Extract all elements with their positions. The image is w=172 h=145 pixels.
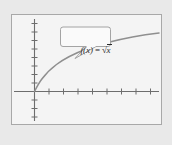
callout-tail-seam [87, 44, 96, 47]
callout-box [61, 27, 111, 47]
y-axis-group [32, 19, 38, 121]
plot-frame: f(x)=√x [11, 14, 162, 125]
figure-container: f(x)=√x [0, 0, 172, 145]
callout-group [61, 27, 111, 59]
plot-canvas [12, 15, 161, 124]
